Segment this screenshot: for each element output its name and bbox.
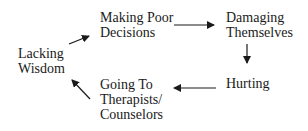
- arrow-wisdom-to-decisions: [69, 36, 89, 44]
- node-label-line: Lacking: [18, 46, 65, 61]
- node-lacking-wisdom: Lacking Wisdom: [18, 46, 65, 76]
- node-label-line: Themselves: [226, 25, 293, 40]
- node-label-line: Hurting: [226, 76, 270, 91]
- node-label-line: Damaging: [226, 10, 293, 25]
- node-label-line: Therapists/: [100, 92, 163, 107]
- node-hurting: Hurting: [226, 76, 270, 91]
- node-making-poor-decisions: Making Poor Decisions: [100, 10, 174, 40]
- node-going-to-therapists: Going To Therapists/ Counselors: [100, 77, 163, 122]
- node-damaging-themselves: Damaging Themselves: [226, 10, 293, 40]
- node-label-line: Making Poor: [100, 10, 174, 25]
- node-label-line: Decisions: [100, 25, 174, 40]
- node-label-line: Counselors: [100, 107, 163, 122]
- cycle-diagram: Lacking Wisdom Making Poor Decisions Dam…: [0, 0, 308, 131]
- arrow-therapists-to-wisdom: [72, 80, 90, 99]
- node-label-line: Going To: [100, 77, 163, 92]
- node-label-line: Wisdom: [18, 61, 65, 76]
